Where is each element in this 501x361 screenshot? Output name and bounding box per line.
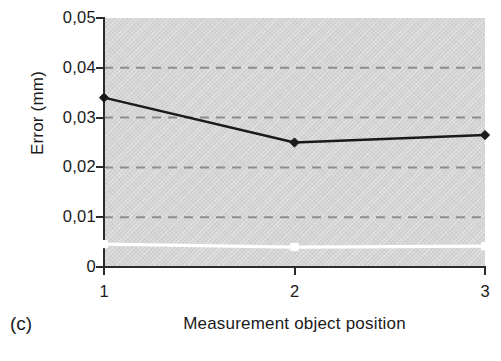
- y-axis-tick-mark: [96, 266, 105, 268]
- x-axis-tick-label: 2: [275, 283, 315, 300]
- data-point-marker-square: [291, 243, 298, 250]
- x-axis-title: Measurement object position: [104, 314, 485, 334]
- data-point-marker-diamond: [99, 93, 108, 102]
- x-axis-tick-mark: [294, 266, 296, 275]
- panel-label: (c): [10, 313, 32, 335]
- y-axis-tick-mark: [96, 216, 105, 218]
- y-axis-tick-mark: [96, 166, 105, 168]
- x-axis-tick-mark: [484, 266, 486, 275]
- data-point-marker-square: [100, 240, 107, 247]
- data-point-marker-square: [481, 242, 488, 249]
- y-axis-tick-mark: [96, 17, 105, 19]
- y-axis-tick-mark: [96, 117, 105, 119]
- chart-canvas: [0, 0, 501, 361]
- series-line-series-black: [104, 98, 485, 143]
- data-point-marker-diamond: [480, 130, 489, 139]
- x-axis-tick-label: 1: [84, 283, 124, 300]
- chart-figure: Error (mm) 0,050,040,030,020,010 123 Mea…: [0, 0, 501, 361]
- data-point-marker-diamond: [290, 138, 299, 147]
- y-axis-tick-mark: [96, 67, 105, 69]
- x-axis-tick-label: 3: [465, 283, 501, 300]
